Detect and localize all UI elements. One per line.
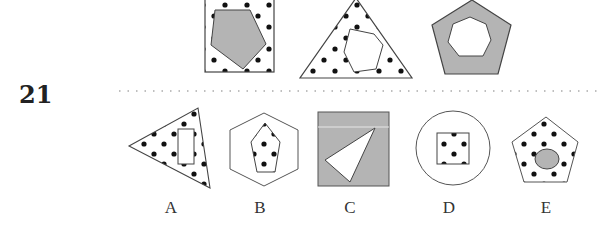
option-a-label[interactable]: A	[165, 198, 177, 218]
option-b-figure[interactable]	[230, 113, 298, 186]
prompt-figure-1	[205, 0, 274, 72]
option-a-figure[interactable]	[129, 108, 210, 188]
option-e-figure[interactable]	[512, 117, 578, 182]
outer-triangle	[129, 108, 210, 188]
option-d-figure[interactable]	[416, 111, 490, 185]
prompt-figure-2	[300, 0, 412, 78]
option-c-label[interactable]: C	[344, 198, 355, 218]
inner-rectangle	[178, 129, 194, 164]
prompt-figure-3	[432, 0, 511, 74]
option-c-figure[interactable]	[318, 112, 389, 186]
inner-square	[437, 133, 469, 164]
option-d-label[interactable]: D	[443, 198, 455, 218]
figure-canvas	[0, 0, 598, 230]
inner-ellipse	[535, 149, 559, 169]
option-b-label[interactable]: B	[254, 198, 265, 218]
option-e-label[interactable]: E	[541, 198, 551, 218]
